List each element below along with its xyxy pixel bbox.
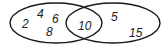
element-10-intersection: 10	[78, 19, 92, 33]
element-4: 4	[37, 7, 44, 21]
element-15: 15	[129, 26, 143, 40]
venn-diagram: 2 4 6 8 10 5 15	[0, 0, 166, 47]
element-2: 2	[21, 17, 29, 31]
element-6: 6	[52, 12, 59, 26]
element-5: 5	[111, 10, 118, 24]
element-8: 8	[46, 25, 53, 39]
